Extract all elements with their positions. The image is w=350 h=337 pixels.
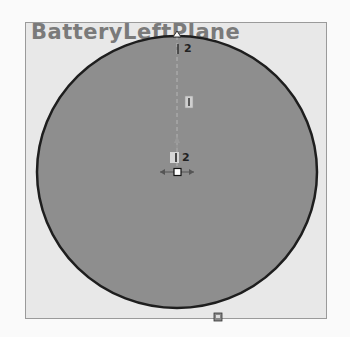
center-relation-count: 2 <box>182 151 190 164</box>
top-point-icon[interactable] <box>173 31 181 37</box>
sketch-canvas[interactable] <box>0 0 350 337</box>
center-relation-icon <box>170 152 179 163</box>
top-relation-count: 2 <box>184 42 192 55</box>
sketch-status-icon[interactable] <box>214 313 222 321</box>
vertical-relation-icon <box>185 96 193 108</box>
